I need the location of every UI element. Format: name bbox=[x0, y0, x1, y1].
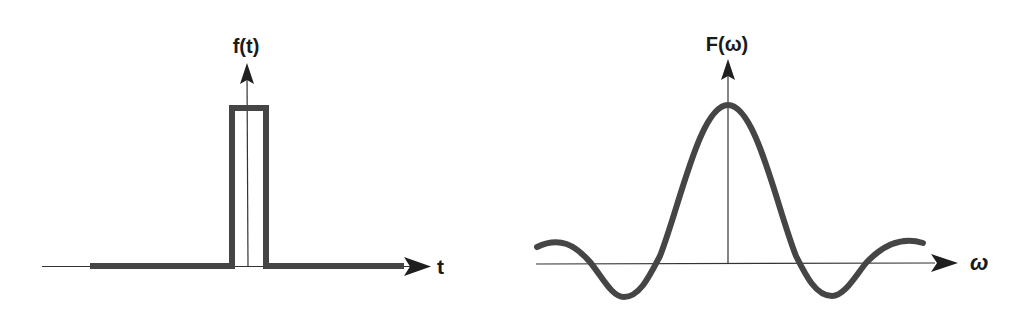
time-domain-plot: t f(t) bbox=[42, 35, 444, 278]
omega-axis-arrow-icon bbox=[931, 254, 958, 272]
F-axis-label: F(ω) bbox=[706, 33, 748, 55]
fourier-pair-diagram: t f(t) ω F(ω) bbox=[0, 0, 1017, 320]
sinc-curve bbox=[537, 105, 923, 297]
f-axis-label: f(t) bbox=[233, 35, 260, 57]
omega-axis bbox=[536, 263, 935, 264]
f-axis bbox=[247, 72, 248, 266]
t-axis-label: t bbox=[437, 255, 444, 278]
omega-axis-label: ω bbox=[970, 250, 988, 275]
frequency-domain-plot: ω F(ω) bbox=[536, 33, 988, 297]
